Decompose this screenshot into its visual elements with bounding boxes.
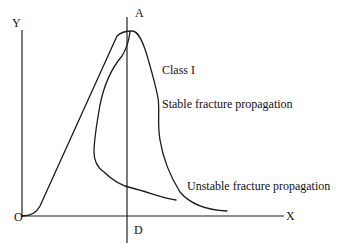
origin-label: O [14,210,23,224]
point-d-label: D [134,223,143,237]
fracture-diagram: Y X O A D Class I Stable fracture propag… [0,0,338,251]
class-label: Class I [162,63,195,77]
y-axis-label: Y [12,16,21,30]
unstable-propagation-label: Unstable fracture propagation [187,179,330,193]
unstable-propagation-curve [94,32,176,200]
stable-propagation-label: Stable fracture propagation [162,97,293,111]
point-a-label: A [135,6,144,20]
x-axis-label: X [286,209,295,223]
